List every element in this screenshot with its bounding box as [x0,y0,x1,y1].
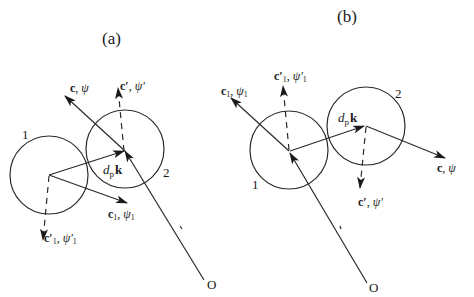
velocity-c1-prime-label: c′1, ψ′1 [274,69,307,84]
velocity-c-arrow [65,96,125,151]
particle-1-label: 1 [252,177,259,192]
velocity-c1-prime-label: c′1, ψ′1 [44,231,77,246]
particle-1-label: 1 [22,127,29,142]
collision-diagram: (a) 1 2 O c, ψ c′, ψ′ dpk c1, ψ1 [0,0,474,297]
origin-label: O [207,277,216,292]
velocity-c-label: c, ψ [70,81,89,95]
velocity-c1-arrow [231,98,289,151]
separation-dpk-label: dpk [338,110,358,127]
particle-2-label: 2 [395,86,402,101]
velocity-c-prime-arrow [360,127,366,188]
separation-dpk-label: dpk [103,162,123,179]
panel-b: (b) 1 2 O c1, ψ1 c′1, ψ′1 dpk c, ψ [221,7,456,295]
panel-a: (a) 1 2 O c, ψ c′, ψ′ dpk c1, ψ1 [10,29,216,292]
position-tick [340,226,341,229]
velocity-c-prime-label: c′, ψ′ [120,79,145,93]
particle-2-label: 2 [163,165,170,180]
position-tick [180,226,182,229]
velocity-c1-label: c1, ψ1 [221,84,248,99]
velocity-c-prime-arrow [118,88,124,151]
position-vector-r [290,153,367,283]
velocity-c1-label: c1, ψ1 [108,207,135,222]
velocity-c1-prime-arrow [283,86,289,150]
particle-2-circle [86,110,164,188]
origin-label: O [369,280,378,295]
panel-b-title: (b) [337,7,357,26]
panel-a-title: (a) [102,29,121,48]
velocity-c-arrow [366,126,445,158]
velocity-c-label: c, ψ [437,161,456,175]
velocity-c-prime-label: c′, ψ′ [358,195,383,209]
